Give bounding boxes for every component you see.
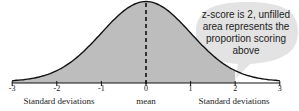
tick-label: 3 xyxy=(278,84,282,93)
tick-label: -2 xyxy=(53,84,60,93)
tick-label: -1 xyxy=(98,84,105,93)
tick-label: 2 xyxy=(233,84,237,93)
tick-label: -3 xyxy=(9,84,16,93)
x-axis-label-left: Standard deviations xyxy=(23,96,94,106)
callout-text: z-score is 2, unfilled area represents t… xyxy=(196,9,296,57)
x-axis-label-mean: mean xyxy=(136,96,156,106)
x-axis-label-right: Standard deviations xyxy=(198,96,269,106)
tick-label: 0 xyxy=(144,84,148,93)
tick-label: 1 xyxy=(189,84,193,93)
